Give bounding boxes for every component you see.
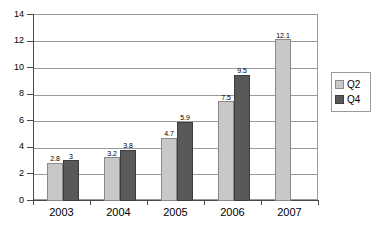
y-tick-2: [27, 173, 33, 174]
bar-label-q2-2006: 7.5: [211, 94, 241, 101]
y-tick-label-8: 8: [8, 89, 24, 98]
bar-q2-2003[interactable]: [47, 163, 63, 201]
legend-label-q2: Q2: [347, 80, 360, 90]
x-tick-label-2006: 2006: [204, 207, 261, 218]
x-tick-4: [261, 200, 262, 205]
y-tick-4: [27, 147, 33, 148]
x-tick-label-2004: 2004: [90, 207, 147, 218]
bar-label-q2-2005: 4.7: [154, 130, 184, 137]
y-tick-10: [27, 67, 33, 68]
y-tick-8: [27, 94, 33, 95]
legend-label-q4: Q4: [347, 95, 360, 105]
bar-q2-2007[interactable]: [275, 39, 291, 201]
y-tick-label-2: 2: [8, 169, 24, 178]
y-tick-label-14: 14: [8, 10, 24, 19]
chart-legend: Q2 Q4: [331, 72, 371, 112]
x-tick-0: [33, 200, 34, 205]
x-tick-label-2007: 2007: [261, 207, 318, 218]
legend-swatch-q2-icon: [335, 80, 344, 89]
bar-chart: 14 12 10 8 6 4 2 0 2003 2004 2005 2006 2…: [0, 0, 378, 229]
legend-swatch-q4-icon: [335, 95, 344, 104]
y-tick-label-10: 10: [8, 63, 24, 72]
x-tick-1: [90, 200, 91, 205]
y-tick-label-6: 6: [8, 116, 24, 125]
x-tick-label-2005: 2005: [147, 207, 204, 218]
legend-item-q2[interactable]: Q2: [335, 77, 367, 92]
y-tick-label-0: 0: [8, 196, 24, 205]
bar-label-q4-2003: 3: [56, 153, 86, 160]
y-tick-label-4: 4: [8, 142, 24, 151]
bar-q2-2004[interactable]: [104, 157, 120, 201]
x-tick-3: [204, 200, 205, 205]
bar-q2-2005[interactable]: [161, 138, 177, 201]
bar-q4-2004[interactable]: [120, 150, 136, 201]
bar-q4-2003[interactable]: [63, 160, 79, 201]
x-tick-5: [318, 200, 319, 205]
y-tick-6: [27, 120, 33, 121]
y-tick-14: [27, 14, 33, 15]
y-tick-label-12: 12: [8, 36, 24, 45]
bar-q2-2006[interactable]: [218, 101, 234, 201]
x-tick-label-2003: 2003: [33, 207, 90, 218]
bar-label-q4-2005: 5.9: [170, 114, 200, 121]
bar-label-q2-2004: 3.2: [97, 150, 127, 157]
y-axis-line: [33, 14, 34, 201]
legend-item-q4[interactable]: Q4: [335, 92, 367, 107]
bar-label-q2-2007: 12.1: [268, 32, 298, 39]
bar-label-q4-2004: 3.8: [113, 142, 143, 149]
bar-label-q4-2006: 9.5: [227, 67, 257, 74]
y-tick-12: [27, 41, 33, 42]
x-tick-2: [147, 200, 148, 205]
